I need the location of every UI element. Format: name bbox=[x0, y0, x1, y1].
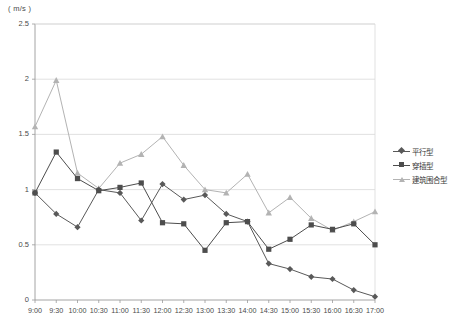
axes bbox=[35, 24, 375, 300]
data-point-square bbox=[202, 248, 207, 253]
data-point-square bbox=[245, 219, 250, 224]
x-tick-label: 12:30 bbox=[173, 307, 195, 314]
data-point-diamond bbox=[329, 276, 335, 282]
series-2 bbox=[32, 149, 377, 252]
data-point-square bbox=[330, 227, 335, 232]
legend-item-label: 建筑围合型 bbox=[412, 174, 447, 185]
data-point-diamond bbox=[287, 266, 293, 272]
data-point-square bbox=[266, 247, 271, 252]
x-tick-label: 11:30 bbox=[130, 307, 152, 314]
data-point-triangle bbox=[32, 123, 38, 129]
data-point-triangle bbox=[266, 210, 272, 216]
data-point-triangle bbox=[287, 194, 293, 200]
legend-key-triangle-icon bbox=[393, 174, 410, 184]
x-tick-label: 9:00 bbox=[24, 307, 46, 314]
x-tick-label: 16:00 bbox=[322, 307, 344, 314]
legend-key-square-icon bbox=[393, 160, 410, 170]
x-tick-label: 10:00 bbox=[67, 307, 89, 314]
x-tick-label: 11:00 bbox=[109, 307, 131, 314]
data-point-diamond bbox=[308, 274, 314, 280]
data-point-square bbox=[160, 220, 165, 225]
data-point-square bbox=[287, 237, 292, 242]
legend-item-label: 平行型 bbox=[412, 146, 433, 157]
data-point-square bbox=[372, 242, 377, 247]
x-tick-label: 13:30 bbox=[215, 307, 237, 314]
legend-item-label: 穿插型 bbox=[412, 160, 433, 171]
legend-marker-diamond-icon bbox=[398, 147, 405, 154]
data-point-square bbox=[54, 149, 59, 154]
y-tick-label: 1 bbox=[0, 186, 29, 194]
data-point-triangle bbox=[74, 170, 80, 176]
x-tick-label: 9:30 bbox=[45, 307, 67, 314]
chart-legend: 平行型穿插型建筑围合型 bbox=[393, 144, 451, 186]
x-tick-label: 17:00 bbox=[364, 307, 386, 314]
data-point-square bbox=[224, 220, 229, 225]
x-tick-label: 12:00 bbox=[152, 307, 174, 314]
data-point-square bbox=[117, 185, 122, 190]
y-tick-label: 1.5 bbox=[0, 130, 29, 138]
data-point-diamond bbox=[351, 287, 357, 293]
x-tick-label: 13:00 bbox=[194, 307, 216, 314]
x-tick-label: 15:00 bbox=[279, 307, 301, 314]
legend-item-1[interactable]: 平行型 bbox=[393, 144, 451, 158]
x-tick-label: 14:00 bbox=[237, 307, 259, 314]
y-tick-label: 2 bbox=[0, 75, 29, 83]
data-point-triangle bbox=[53, 77, 59, 83]
data-point-square bbox=[309, 222, 314, 227]
data-point-triangle bbox=[117, 160, 123, 166]
x-tick-label: 10:30 bbox=[88, 307, 110, 314]
legend-marker-square-icon bbox=[399, 162, 404, 167]
y-tick-label: 2.5 bbox=[0, 20, 29, 28]
series-line bbox=[35, 80, 375, 230]
plot-area bbox=[0, 0, 453, 330]
legend-item-2[interactable]: 穿插型 bbox=[393, 158, 451, 172]
data-point-square bbox=[139, 180, 144, 185]
wind-speed-line-chart: ( m/s ) 00.511.522.5 9:009:3010:0010:301… bbox=[0, 0, 453, 330]
x-tick-marks bbox=[32, 24, 375, 303]
series-1 bbox=[32, 181, 378, 300]
y-tick-label: 0 bbox=[0, 296, 29, 304]
legend-item-3[interactable]: 建筑围合型 bbox=[393, 172, 451, 186]
data-point-diamond bbox=[266, 260, 272, 266]
legend-marker-triangle-icon bbox=[399, 177, 405, 182]
data-point-triangle bbox=[372, 208, 378, 214]
x-tick-label: 15:30 bbox=[300, 307, 322, 314]
series-line bbox=[35, 184, 375, 297]
y-tick-label: 0.5 bbox=[0, 241, 29, 249]
data-point-square bbox=[181, 221, 186, 226]
y-axis-unit-label: ( m/s ) bbox=[8, 4, 31, 13]
data-point-square bbox=[32, 190, 37, 195]
data-point-diamond bbox=[74, 224, 80, 230]
series-line bbox=[35, 152, 375, 250]
data-point-triangle bbox=[244, 171, 250, 177]
data-point-square bbox=[351, 221, 356, 226]
x-tick-label: 14:30 bbox=[258, 307, 280, 314]
x-tick-label: 16:30 bbox=[343, 307, 365, 314]
data-point-square bbox=[75, 176, 80, 181]
legend-key-diamond-icon bbox=[393, 146, 410, 156]
data-point-diamond bbox=[372, 294, 378, 300]
series-3 bbox=[32, 77, 378, 233]
data-point-square bbox=[96, 188, 101, 193]
